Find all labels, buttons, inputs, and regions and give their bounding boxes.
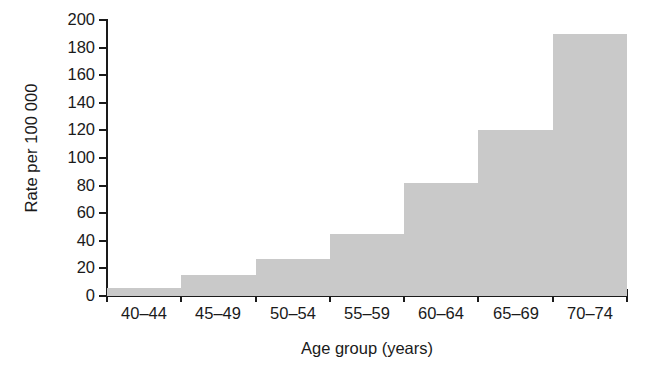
bar [107,288,181,296]
y-tick-label: 40 [43,232,95,248]
y-tick-label: 0 [43,287,95,303]
bar-chart-figure: Rate per 100 000 02040608010012014016018… [0,0,655,380]
x-axis-title: Age group (years) [107,338,627,358]
bar [478,130,553,296]
y-tick-label: 140 [43,94,95,110]
y-tick-label: 120 [43,121,95,137]
y-tick-label: 80 [43,177,95,193]
y-tick-label: 20 [43,259,95,275]
y-tick-label: 100 [43,149,95,165]
y-tick-label: 160 [43,66,95,82]
bar [553,34,627,296]
bar [330,234,404,296]
y-tick-label: 200 [43,11,95,27]
y-axis-title: Rate per 100 000 [18,0,44,296]
plot-area [107,20,627,296]
y-tick-label: 180 [43,39,95,55]
bar [404,183,478,296]
bar [256,259,330,296]
x-tick-label: 70–74 [545,303,635,323]
y-tick-label: 60 [43,204,95,220]
bar [181,275,256,296]
